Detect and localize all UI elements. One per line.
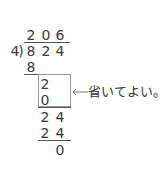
- final-remainder: 0: [55, 143, 65, 157]
- quotient-digit-2: 0: [41, 28, 51, 42]
- step-product-0: 0: [40, 93, 50, 107]
- quotient-digit-3: 6: [55, 28, 65, 42]
- step-product-8: 8: [26, 60, 36, 74]
- dividend-digit-1: 8: [26, 44, 36, 58]
- step-remainder-24-ones: 4: [55, 110, 65, 124]
- division-bracket: ): [17, 44, 25, 58]
- step-product-24-tens: 2: [40, 126, 50, 140]
- omit-note: 省いてよい。: [88, 85, 164, 99]
- dividend-digit-2: 2: [41, 44, 51, 58]
- step-remainder-2: 2: [40, 77, 50, 91]
- subtraction-line-3: [38, 140, 71, 141]
- step-product-24-ones: 4: [55, 126, 65, 140]
- quotient-digit-1: 2: [26, 28, 36, 42]
- step-remainder-24-tens: 2: [40, 110, 50, 124]
- left-arrow-icon: [72, 88, 88, 96]
- subtraction-line-2: [38, 107, 71, 108]
- dividend-digit-3: 4: [55, 44, 65, 58]
